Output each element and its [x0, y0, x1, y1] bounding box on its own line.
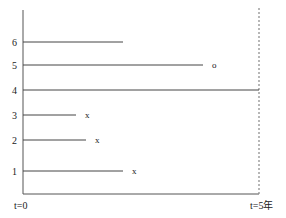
subject-2: 2x	[12, 135, 100, 146]
subject-lines: 1x2x3x45o6	[12, 37, 259, 177]
subject-label: 3	[12, 110, 17, 121]
subject-3: 3x	[12, 110, 90, 121]
subject-4: 4	[12, 85, 259, 96]
subject-5: 5o	[12, 60, 217, 71]
censored-o-marker-icon: o	[212, 60, 217, 70]
subject-label: 5	[12, 60, 17, 71]
subject-6: 6	[12, 37, 123, 48]
event-x-marker-icon: x	[132, 166, 137, 176]
subject-label: 2	[12, 135, 17, 146]
x-start-label: t=0	[14, 200, 27, 211]
subject-label: 4	[12, 85, 17, 96]
x-end-label: t=5年	[250, 199, 273, 211]
subject-1: 1x	[12, 166, 137, 177]
subject-label: 1	[12, 166, 17, 177]
event-x-marker-icon: x	[85, 110, 90, 120]
subject-label: 6	[12, 37, 17, 48]
event-x-marker-icon: x	[95, 135, 100, 145]
survival-timeline-diagram: 1x2x3x45o6 t=0 t=5年	[0, 0, 286, 218]
